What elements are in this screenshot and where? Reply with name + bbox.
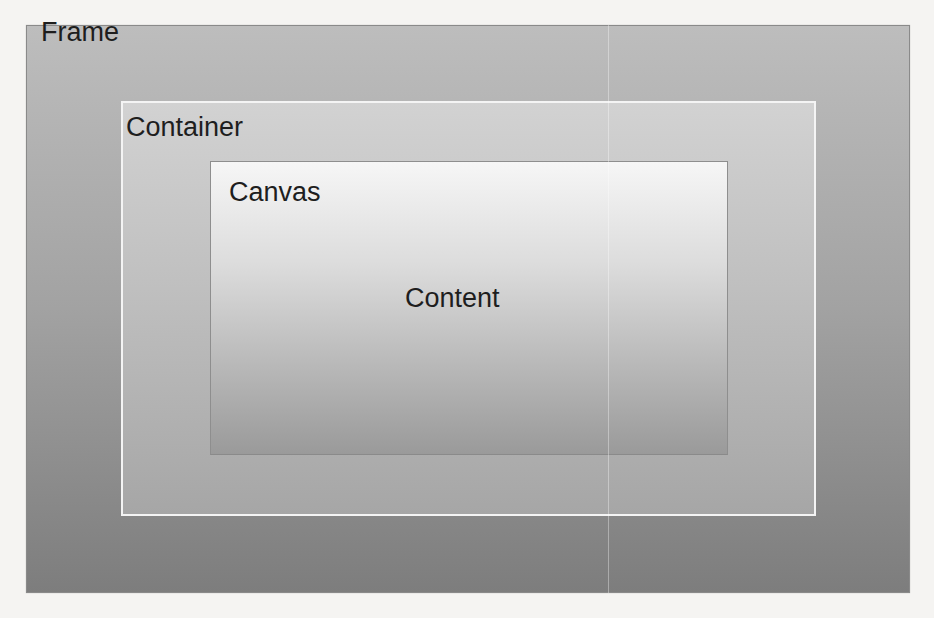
container-label: Container (126, 114, 243, 141)
frame-label: Frame (41, 19, 119, 46)
scan-artifact-line (608, 25, 609, 593)
canvas-label: Canvas (229, 179, 321, 206)
content-label: Content (405, 285, 500, 312)
